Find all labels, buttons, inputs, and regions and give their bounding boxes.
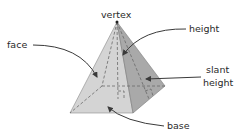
label-vertex: vertex xyxy=(101,9,132,20)
vertex-point xyxy=(116,21,119,24)
label-slant-height: height xyxy=(203,77,234,88)
label-base: base xyxy=(167,120,190,131)
label-face: face xyxy=(7,39,27,50)
label-height: height xyxy=(189,23,220,34)
label-slant: slant xyxy=(206,64,229,75)
pyramid-diagram: vertex face height slant height base xyxy=(0,0,243,135)
face-arrow xyxy=(33,45,97,77)
